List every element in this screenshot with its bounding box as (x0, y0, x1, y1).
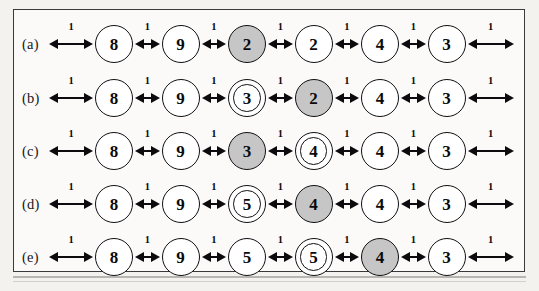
graph-node[interactable]: 2 (295, 25, 333, 63)
edge-weight-label: 1 (344, 235, 349, 246)
edge-weight-label: 1 (278, 235, 283, 246)
edge-trail: 1 (468, 91, 514, 105)
arrow-head-right-icon (217, 39, 226, 49)
graph-node[interactable]: 5 (228, 185, 266, 223)
edge-weight-label: 1 (145, 129, 150, 140)
edge-trail: 1 (468, 250, 514, 264)
arrow-head-right-icon (151, 199, 160, 209)
edge-weight-label: 1 (145, 182, 150, 193)
node-value: 2 (309, 90, 318, 107)
edge-trail: 1 (468, 37, 514, 51)
edge-2: 1 (202, 250, 227, 264)
graph-node[interactable]: 8 (95, 238, 133, 276)
graph-node[interactable]: 4 (295, 185, 333, 223)
edge-weight-label: 1 (344, 182, 349, 193)
edge-weight-label: 1 (68, 129, 73, 140)
edge-5: 1 (401, 91, 426, 105)
node-value: 3 (442, 36, 451, 53)
graph-node[interactable]: 4 (361, 132, 399, 170)
arrow-head-right-icon (505, 39, 514, 49)
node-value: 2 (243, 36, 252, 53)
edge-weight-label: 1 (411, 129, 416, 140)
edge-weight-label: 1 (488, 22, 493, 33)
graph-node[interactable]: 4 (295, 132, 333, 170)
graph-node[interactable]: 4 (361, 79, 399, 117)
graph-node[interactable]: 9 (162, 185, 200, 223)
edge-weight-label: 1 (211, 235, 216, 246)
figure-frame: (a)1819121214131(b)1819131214131(c)18191… (13, 9, 525, 272)
edge-shaft (473, 203, 509, 206)
arrow-head-right-icon (350, 199, 359, 209)
graph-node[interactable]: 8 (95, 25, 133, 63)
node-value: 5 (243, 196, 252, 213)
arrow-head-right-icon (417, 39, 426, 49)
arrow-head-right-icon (151, 252, 160, 262)
node-value: 5 (309, 249, 318, 266)
graph-node[interactable]: 4 (361, 25, 399, 63)
row-label: (d) (22, 196, 40, 213)
node-value: 3 (442, 196, 451, 213)
edge-weight-label: 1 (145, 22, 150, 33)
graph-node[interactable]: 3 (428, 132, 466, 170)
arrow-head-right-icon (505, 146, 514, 156)
edge-5: 1 (401, 250, 426, 264)
edge-weight-label: 1 (145, 76, 150, 87)
edge-2: 1 (202, 197, 227, 211)
graph-node[interactable]: 9 (162, 238, 200, 276)
graph-node[interactable]: 8 (95, 79, 133, 117)
edge-1: 1 (135, 197, 160, 211)
graph-node[interactable]: 8 (95, 185, 133, 223)
graph-node[interactable]: 4 (361, 238, 399, 276)
edge-weight-label: 1 (211, 22, 216, 33)
edge-1: 1 (135, 250, 160, 264)
graph-node[interactable]: 3 (428, 25, 466, 63)
edge-5: 1 (401, 37, 426, 51)
graph-node[interactable]: 3 (428, 238, 466, 276)
page-rule-secondary (13, 281, 526, 282)
node-value: 4 (376, 36, 385, 53)
arrow-head-right-icon (284, 93, 293, 103)
graph-node[interactable]: 3 (228, 132, 266, 170)
edge-weight-label: 1 (344, 22, 349, 33)
edge-1: 1 (135, 37, 160, 51)
arrow-head-right-icon (151, 39, 160, 49)
graph-node[interactable]: 3 (428, 79, 466, 117)
arrow-head-right-icon (84, 146, 93, 156)
arrow-head-right-icon (217, 252, 226, 262)
graph-node[interactable]: 5 (295, 238, 333, 276)
node-value: 9 (176, 90, 185, 107)
arrow-head-right-icon (284, 39, 293, 49)
figure-canvas: (a)1819121214131(b)1819131214131(c)18191… (0, 0, 539, 291)
edge-4: 1 (335, 197, 360, 211)
edge-1: 1 (135, 144, 160, 158)
edge-5: 1 (401, 197, 426, 211)
arrow-head-right-icon (417, 199, 426, 209)
graph-node[interactable]: 9 (162, 132, 200, 170)
diagram-row-b: (b)1819131214131 (14, 72, 526, 124)
graph-node[interactable]: 5 (228, 238, 266, 276)
graph-node[interactable]: 2 (295, 79, 333, 117)
graph-node[interactable]: 3 (428, 185, 466, 223)
arrow-head-right-icon (350, 146, 359, 156)
node-value: 3 (442, 90, 451, 107)
arrow-head-right-icon (350, 93, 359, 103)
arrow-head-right-icon (284, 146, 293, 156)
edge-weight-label: 1 (68, 182, 73, 193)
arrow-head-right-icon (505, 93, 514, 103)
graph-node[interactable]: 2 (228, 25, 266, 63)
diagram-row-c: (c)1819131414131 (14, 125, 526, 177)
edge-2: 1 (202, 91, 227, 105)
edge-weight-label: 1 (411, 235, 416, 246)
edge-weight-label: 1 (278, 129, 283, 140)
edge-weight-label: 1 (488, 235, 493, 246)
graph-node[interactable]: 9 (162, 25, 200, 63)
edge-weight-label: 1 (488, 182, 493, 193)
graph-node[interactable]: 3 (228, 79, 266, 117)
arrow-head-right-icon (84, 252, 93, 262)
graph-node[interactable]: 9 (162, 79, 200, 117)
arrow-head-right-icon (350, 39, 359, 49)
arrow-head-right-icon (217, 93, 226, 103)
node-value: 8 (110, 143, 119, 160)
graph-node[interactable]: 8 (95, 132, 133, 170)
graph-node[interactable]: 4 (361, 185, 399, 223)
